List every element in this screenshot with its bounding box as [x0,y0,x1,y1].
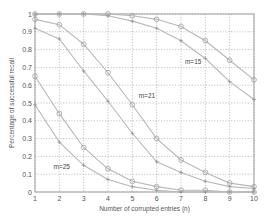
x-tick-label: 6 [155,195,159,202]
data-point-plus [179,170,183,174]
x-tick-label: 8 [203,195,207,202]
y-axis-label: Percentage of successful recall [8,57,16,148]
data-point-plus [130,19,134,23]
series-line [35,14,254,80]
y-tick-label: 1 [28,11,32,18]
data-point-plus [33,26,37,30]
x-tick-label: 7 [179,195,183,202]
y-tick-label: 0.2 [22,153,32,160]
annotations: m=15m=21m=25 [54,58,202,170]
y-tick-label: 0.8 [22,46,32,53]
x-tick-label: 1 [33,195,37,202]
data-point-plus [82,12,86,16]
y-tick-label: 0.9 [22,28,32,35]
x-tick-label: 3 [82,195,86,202]
y-tick-label: 0.3 [22,135,32,142]
data-point-plus [203,179,207,183]
data-point-plus [155,26,159,30]
chart: 12345678910 00.10.20.30.40.50.60.70.80.9… [0,0,269,223]
y-tick-label: 0 [28,189,32,196]
y-tick-labels: 00.10.20.30.40.50.60.70.80.91 [22,11,32,196]
y-tick-label: 0.7 [22,64,32,71]
data-point-plus [130,185,134,189]
data-point-plus [33,12,37,16]
x-tick-label: 2 [57,195,61,202]
x-tick-label: 5 [130,195,134,202]
data-point-plus [57,12,61,16]
series-line [35,14,254,99]
x-tick-label: 4 [106,195,110,202]
x-axis-label: Number of corrupted entries (n) [99,205,190,213]
curve-annotation: m=15 [185,58,202,65]
y-tick-label: 0.6 [22,82,32,89]
y-tick-label: 0.1 [22,171,32,178]
y-tick-label: 0.4 [22,117,32,124]
x-tick-label: 9 [228,195,232,202]
series-m-15- [33,12,256,101]
data-point-plus [228,190,232,194]
curve-annotation: m=21 [139,92,156,99]
data-point-plus [252,190,256,194]
y-tick-label: 0.5 [22,100,32,107]
curve-annotation: m=25 [54,163,71,170]
series-m-15-o- [33,12,257,83]
x-tick-labels: 12345678910 [33,195,258,202]
x-tick-label: 10 [250,195,258,202]
